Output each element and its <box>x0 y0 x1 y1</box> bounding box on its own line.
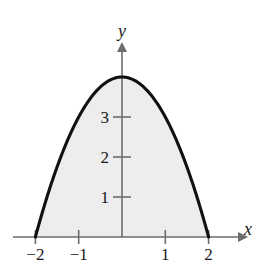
plot-area <box>0 0 267 277</box>
x-tick-label-neg1: −1 <box>70 246 88 263</box>
y-tick-label-3: 3 <box>101 109 110 126</box>
y-tick-label-2: 2 <box>101 149 110 166</box>
x-tick-label-neg2: −2 <box>26 246 44 263</box>
y-axis-arrowhead <box>117 42 127 52</box>
figure-canvas: −2 −1 1 2 1 2 3 x y <box>0 0 267 277</box>
y-tick-label-1: 1 <box>101 189 110 206</box>
x-tick-label-pos2: 2 <box>204 246 213 263</box>
x-tick-label-pos1: 1 <box>161 246 170 263</box>
y-axis-label: y <box>118 22 126 40</box>
x-axis-label: x <box>244 220 252 238</box>
